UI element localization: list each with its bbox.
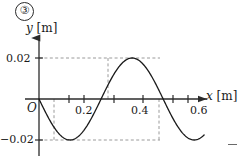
axes-lines [25,38,207,156]
figure-container: ③ y [m] x [m] O 0.02 −0.02 0.2 0.4 0.6 [0,0,241,156]
plot-svg [0,0,241,156]
